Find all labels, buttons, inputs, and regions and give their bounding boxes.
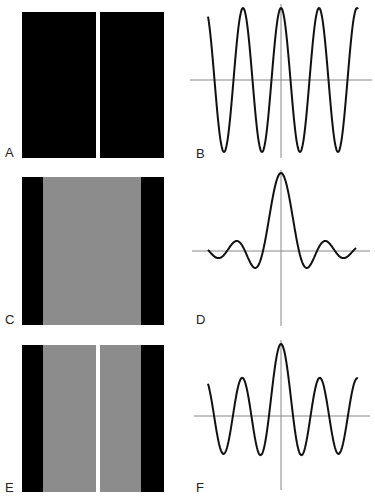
white-slit bbox=[96, 12, 100, 158]
gray-band bbox=[43, 177, 141, 325]
band-with-slit-image bbox=[22, 345, 164, 492]
label-a: A bbox=[5, 145, 14, 160]
label-c: C bbox=[5, 312, 14, 327]
plot-b bbox=[188, 0, 375, 165]
label-b: B bbox=[196, 146, 205, 161]
plot-f bbox=[188, 335, 375, 501]
label-e: E bbox=[5, 480, 14, 495]
white-slit bbox=[96, 345, 100, 492]
label-f: F bbox=[196, 480, 204, 495]
single-slit-image bbox=[22, 12, 164, 158]
plot-d bbox=[188, 165, 375, 335]
gray-band bbox=[43, 345, 141, 492]
label-d: D bbox=[196, 312, 205, 327]
wide-band-image bbox=[22, 177, 164, 325]
